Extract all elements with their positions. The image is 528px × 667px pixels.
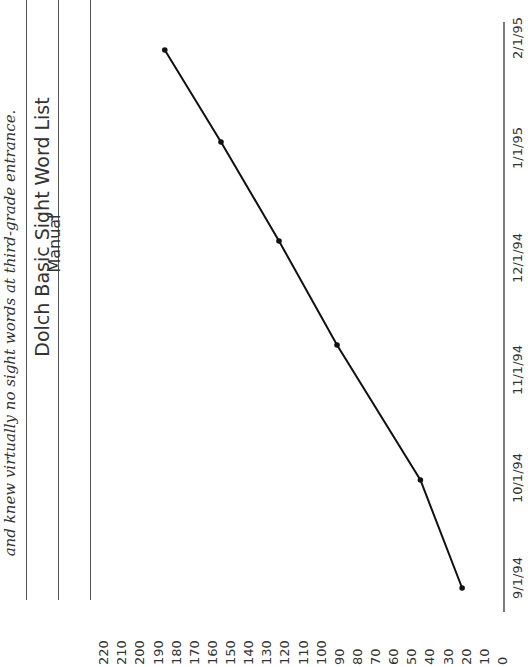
y-tick-label: 150 — [223, 640, 238, 665]
y-tick-label: 10 — [477, 648, 492, 665]
y-tick-label: 60 — [386, 648, 401, 665]
y-tick-label: 190 — [151, 640, 166, 665]
y-axis-tick-labels: 0102030405060708090100110120130140150160… — [96, 640, 510, 665]
y-tick-label: 130 — [259, 640, 274, 665]
line-chart: 0102030405060708090100110120130140150160… — [0, 0, 528, 667]
data-line — [165, 50, 462, 588]
data-point-marker — [162, 47, 168, 53]
x-tick-label: 1/1/95 — [510, 127, 525, 169]
data-points — [162, 47, 465, 591]
x-tick-label: 9/1/94 — [510, 557, 525, 599]
data-point-marker — [459, 585, 465, 591]
x-tick-label: 10/1/94 — [510, 453, 525, 503]
y-tick-label: 220 — [96, 640, 111, 665]
y-tick-label: 170 — [187, 640, 202, 665]
y-tick-label: 100 — [314, 640, 329, 665]
y-tick-label: 50 — [404, 648, 419, 665]
data-point-marker — [418, 477, 424, 483]
y-tick-label: 140 — [241, 640, 256, 665]
y-tick-label: 90 — [332, 648, 347, 665]
y-tick-label: 20 — [459, 648, 474, 665]
y-tick-label: 200 — [132, 640, 147, 665]
data-point-marker — [276, 238, 282, 244]
data-point-marker — [218, 139, 224, 145]
y-tick-label: 40 — [422, 648, 437, 665]
y-tick-label: 70 — [368, 648, 383, 665]
x-tick-label: 12/1/94 — [510, 233, 525, 283]
y-tick-label: 180 — [169, 640, 184, 665]
x-axis-tick-labels: 9/1/9410/1/9411/1/9412/1/941/1/952/1/95 — [510, 17, 525, 599]
y-tick-label: 160 — [205, 640, 220, 665]
x-tick-label: 11/1/94 — [510, 345, 525, 395]
y-tick-label: 80 — [350, 648, 365, 665]
x-tick-label: 2/1/95 — [510, 17, 525, 59]
y-tick-label: 0 — [495, 657, 510, 665]
y-tick-label: 210 — [114, 640, 129, 665]
data-point-marker — [334, 342, 340, 348]
y-tick-label: 30 — [441, 648, 456, 665]
y-tick-label: 120 — [277, 640, 292, 665]
y-tick-label: 110 — [296, 640, 311, 665]
